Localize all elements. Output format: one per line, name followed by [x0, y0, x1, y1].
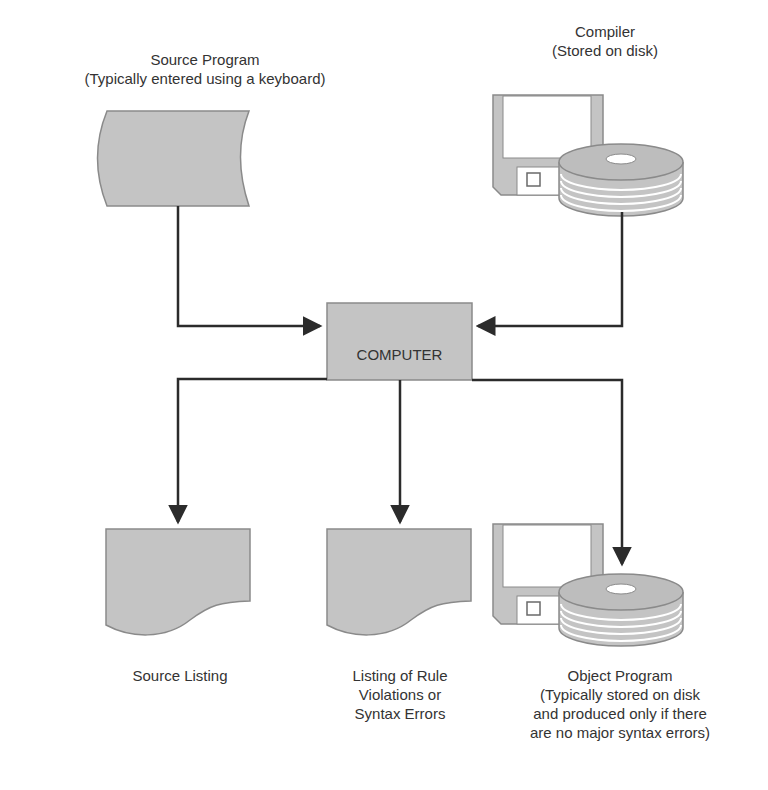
- computer-box: [327, 303, 472, 380]
- computer-label: COMPUTER: [357, 346, 443, 363]
- object-program-line2: (Typically stored on disk: [510, 685, 730, 704]
- rule-violations-line2: Violations or: [320, 685, 480, 704]
- rule-violations-label: Listing of Rule Violations or Syntax Err…: [320, 666, 480, 723]
- rule-violations-line1: Listing of Rule: [320, 666, 480, 685]
- object-program-title: Object Program: [510, 666, 730, 685]
- compiler-disk-icon: [493, 95, 683, 216]
- source-listing-label: Source Listing: [100, 666, 260, 685]
- source-listing-document: [106, 529, 250, 635]
- rule-violations-line3: Syntax Errors: [320, 704, 480, 723]
- rule-violations-document: [327, 529, 471, 635]
- source-program-shape: [98, 111, 250, 206]
- object-program-line3: and produced only if there: [510, 704, 730, 723]
- edge-source-to-computer: [178, 206, 320, 326]
- edge-compiler-to-computer: [478, 212, 622, 326]
- object-program-line4: are no major syntax errors): [510, 723, 730, 742]
- object-program-label: Object Program (Typically stored on disk…: [510, 666, 730, 742]
- object-program-disk-icon: [493, 524, 683, 646]
- edge-computer-to-source-listing: [178, 379, 327, 522]
